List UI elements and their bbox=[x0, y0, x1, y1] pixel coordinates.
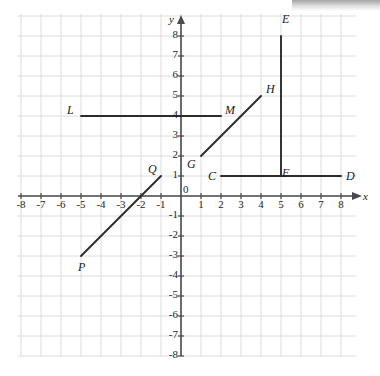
x-tick-label--7: -7 bbox=[31, 198, 51, 210]
point-label-Q: Q bbox=[148, 162, 157, 177]
y-tick-label-2: 2 bbox=[162, 148, 178, 160]
y-tick-label--5: -5 bbox=[162, 288, 178, 300]
x-tick-label-6: 6 bbox=[291, 198, 311, 210]
point-label-E: E bbox=[282, 12, 289, 27]
point-label-D: D bbox=[346, 169, 355, 184]
y-tick-label--2: -2 bbox=[162, 228, 178, 240]
line-segments bbox=[81, 36, 341, 256]
x-tick-label-5: 5 bbox=[271, 198, 291, 210]
y-tick-label--6: -6 bbox=[162, 308, 178, 320]
y-tick-label-3: 3 bbox=[162, 128, 178, 140]
y-axis-label: y bbox=[169, 13, 174, 25]
x-tick-label-8: 8 bbox=[331, 198, 351, 210]
x-tick-label-3: 3 bbox=[231, 198, 251, 210]
coordinate-grid-figure: yx0-8-7-6-5-4-3-2-11234567887654321-1-2-… bbox=[0, 0, 380, 376]
plot-canvas bbox=[0, 0, 380, 376]
y-tick-label-5: 5 bbox=[162, 88, 178, 100]
x-tick-label-1: 1 bbox=[191, 198, 211, 210]
y-tick-label-1: 1 bbox=[162, 168, 178, 180]
y-tick-label-4: 4 bbox=[162, 108, 178, 120]
y-tick-label-6: 6 bbox=[162, 68, 178, 80]
point-label-C: C bbox=[208, 169, 216, 184]
y-tick-label--8: -8 bbox=[162, 348, 178, 360]
x-tick-label-2: 2 bbox=[211, 198, 231, 210]
x-tick-label--4: -4 bbox=[91, 198, 111, 210]
axis-lines bbox=[18, 15, 362, 356]
point-label-H: H bbox=[266, 82, 275, 97]
x-tick-label-4: 4 bbox=[251, 198, 271, 210]
y-tick-label-7: 7 bbox=[162, 48, 178, 60]
x-tick-label--8: -8 bbox=[11, 198, 31, 210]
x-tick-label-7: 7 bbox=[311, 198, 331, 210]
origin-tick-label: 0 bbox=[183, 183, 189, 195]
x-tick-label--3: -3 bbox=[111, 198, 131, 210]
y-tick-label--3: -3 bbox=[162, 248, 178, 260]
point-label-F: F bbox=[282, 166, 289, 181]
x-tick-label--2: -2 bbox=[131, 198, 151, 210]
y-tick-label--1: -1 bbox=[162, 208, 178, 220]
point-label-G: G bbox=[187, 157, 196, 172]
x-tick-label--5: -5 bbox=[71, 198, 91, 210]
y-tick-label--7: -7 bbox=[162, 328, 178, 340]
y-tick-label--4: -4 bbox=[162, 268, 178, 280]
y-tick-label-8: 8 bbox=[162, 28, 178, 40]
x-axis-label: x bbox=[363, 190, 368, 202]
point-label-M: M bbox=[225, 103, 235, 118]
x-tick-label--6: -6 bbox=[51, 198, 71, 210]
point-label-L: L bbox=[67, 103, 74, 118]
point-label-P: P bbox=[78, 260, 85, 275]
